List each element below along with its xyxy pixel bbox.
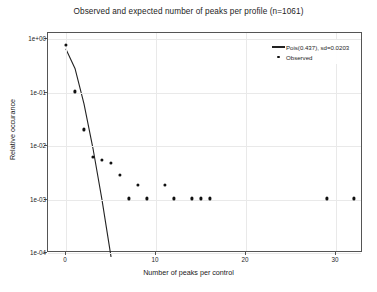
y-axis-label: Relative occurance [8,90,17,170]
y-axis-tick-label: 1e-01 [30,88,46,95]
x-axis-tick [245,252,246,255]
x-axis-tick-label: 10 [151,256,158,263]
gridline-vertical [156,33,157,251]
x-axis-tick [335,252,336,255]
x-axis-label: Number of peaks per control [0,268,377,277]
dot-marker-icon [271,56,286,59]
legend-label-observed: Observed [286,54,312,61]
x-axis-tick-label: 20 [241,256,248,263]
chart-figure: Observed and expected number of peaks pe… [0,0,377,292]
gridline-horizontal [48,200,361,201]
gridline-horizontal [48,253,361,254]
plot-area [47,32,362,252]
y-axis-tick-label: 1e-04 [30,249,46,256]
poisson-expected-curve [48,33,363,253]
x-axis-tick [65,252,66,255]
legend-item-expected: Pois(0.437), sd=0.0203 [271,42,357,52]
chart-title: Observed and expected number of peaks pe… [0,7,377,16]
gridline-vertical [246,33,247,251]
gridline-horizontal [48,146,361,147]
chart-legend: Pois(0.437), sd=0.0203 Observed [268,40,360,64]
gridline-horizontal [48,93,361,94]
y-axis-tick-label: 1e-02 [30,142,46,149]
x-axis-tick-label: 0 [63,256,67,263]
legend-item-observed: Observed [271,52,357,62]
x-axis-tick [155,252,156,255]
line-marker-icon [271,46,286,47]
y-axis-tick-label: 1e-03 [30,195,46,202]
legend-label-expected: Pois(0.437), sd=0.0203 [286,44,349,51]
x-axis-tick-label: 30 [331,256,338,263]
y-axis-tick-label: 1e+00 [28,35,46,42]
gridline-vertical [66,33,67,251]
gridline-vertical [336,33,337,251]
